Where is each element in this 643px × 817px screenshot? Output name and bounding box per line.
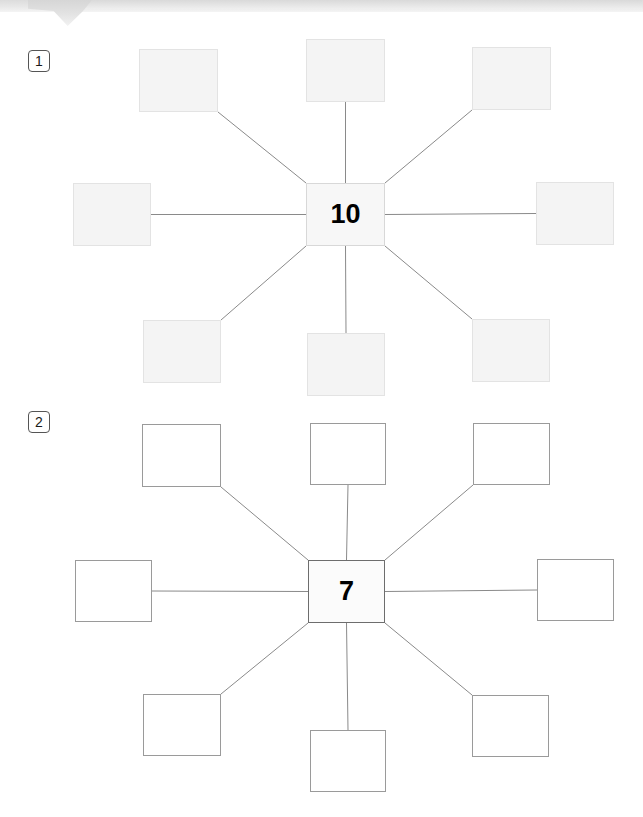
- connector-line-top-center: [347, 485, 349, 560]
- answer-box-top-left[interactable]: [139, 49, 218, 112]
- answer-box-middle-left[interactable]: [73, 183, 151, 246]
- connector-line-middle-right: [385, 590, 537, 592]
- answer-box-bottom-right[interactable]: [472, 695, 549, 757]
- worksheet-page: 1 2 107: [0, 0, 643, 817]
- center-number-box: 10: [306, 183, 385, 246]
- connector-line-middle-left: [152, 591, 308, 592]
- connector-line-bottom-right: [385, 623, 472, 695]
- answer-box-top-right[interactable]: [473, 423, 550, 485]
- answer-box-top-center[interactable]: [310, 423, 386, 485]
- connector-line-bottom-left: [221, 623, 308, 694]
- answer-box-bottom-center[interactable]: [307, 333, 385, 396]
- answer-box-bottom-left[interactable]: [143, 320, 221, 383]
- connector-line-top-right: [385, 485, 473, 560]
- answer-box-top-left[interactable]: [142, 424, 221, 487]
- answer-box-middle-right[interactable]: [536, 182, 614, 245]
- connector-line-top-left: [221, 487, 308, 560]
- answer-box-bottom-center[interactable]: [310, 730, 386, 792]
- answer-box-top-right[interactable]: [472, 47, 551, 110]
- connector-line-bottom-center: [347, 623, 349, 730]
- answer-box-bottom-right[interactable]: [472, 319, 550, 382]
- answer-box-top-center[interactable]: [306, 39, 385, 102]
- answer-box-middle-right[interactable]: [537, 559, 614, 621]
- center-number-label: 10: [330, 201, 360, 228]
- answer-box-bottom-left[interactable]: [143, 694, 221, 756]
- center-number-box: 7: [308, 560, 385, 623]
- center-number-label: 7: [339, 578, 354, 605]
- answer-box-middle-left[interactable]: [75, 560, 152, 622]
